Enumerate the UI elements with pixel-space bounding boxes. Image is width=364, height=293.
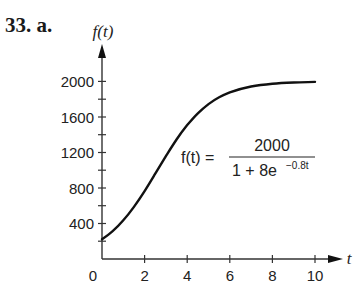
y-axis-title: f(t) [93,22,114,41]
x-axis-arrow-icon [328,255,343,263]
y-tick-label-800: 800 [69,180,94,197]
y-tick-label-1600: 1600 [61,109,94,126]
logistic-chart: 400 800 1200 1600 2000 0 2 4 6 8 10 f(t)… [0,0,364,293]
formula-exponent: −0.8t [286,160,309,171]
x-tick-label-10: 10 [307,267,324,284]
x-tick-label-8: 8 [268,267,276,284]
y-tick-label-2000: 2000 [61,73,94,90]
formula-numerator: 2000 [254,137,290,154]
y-tick-label-400: 400 [69,215,94,232]
x-tick-label-2: 2 [140,267,148,284]
formula-lhs: f(t) = [181,149,214,166]
formula-denominator: 1 + 8e [232,162,277,179]
x-tick-label-4: 4 [183,267,191,284]
y-axis-arrow-icon [98,44,106,58]
x-tick-label-6: 6 [226,267,234,284]
formula-annotation: f(t) = 2000 1 + 8e −0.8t [181,137,315,179]
x-tick-label-0: 0 [89,267,97,284]
y-tick-label-1200: 1200 [61,144,94,161]
x-axis-title: t [347,249,353,268]
